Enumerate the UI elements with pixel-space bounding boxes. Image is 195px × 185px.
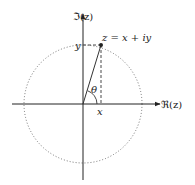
- point-label: z = x + iy: [101, 32, 152, 43]
- y-label: y: [74, 40, 81, 51]
- angle-label: θ: [91, 84, 97, 95]
- real-axis-label: ℜ(z): [161, 99, 182, 110]
- modulus-line: [83, 45, 101, 104]
- point-z: [99, 43, 103, 47]
- x-label: x: [97, 106, 103, 117]
- complex-plane-diagram: ℑ(z) ℜ(z) z = x + iy y x θ: [0, 0, 195, 185]
- imaginary-axis-label: ℑ(z): [73, 11, 93, 22]
